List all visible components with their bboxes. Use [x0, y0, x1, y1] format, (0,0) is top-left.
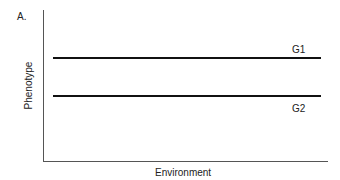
panel-label: A. [17, 11, 26, 22]
series-label-g1: G1 [292, 44, 305, 55]
series-line-g2 [53, 95, 321, 97]
series-line-g1 [53, 57, 321, 59]
x-axis [43, 161, 328, 162]
y-axis [43, 10, 44, 162]
x-axis-label: Environment [155, 167, 211, 178]
y-axis-label: Phenotype [23, 56, 34, 116]
series-label-g2: G2 [292, 103, 305, 114]
